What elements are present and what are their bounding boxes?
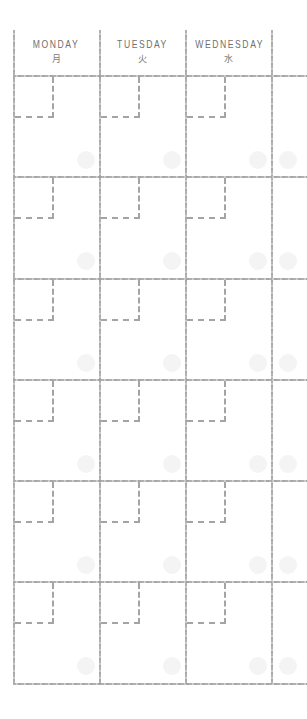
decorative-dot <box>163 657 181 675</box>
date-box <box>101 583 140 624</box>
day-cell[interactable] <box>187 280 271 379</box>
date-box <box>187 381 226 422</box>
day-label-en: WEDNESDAY <box>195 38 261 50</box>
decorative-dot <box>77 151 95 169</box>
date-box <box>101 178 140 219</box>
day-cell[interactable] <box>273 381 307 480</box>
decorative-dot <box>77 252 95 270</box>
day-label-en: TUESDAY <box>109 38 175 50</box>
day-cell[interactable] <box>101 381 185 480</box>
date-box <box>15 178 54 219</box>
decorative-dot <box>249 252 267 270</box>
day-label-jp: 火 <box>100 52 185 65</box>
decorative-dot <box>249 151 267 169</box>
date-box <box>101 381 140 422</box>
decorative-dot <box>249 354 267 372</box>
decorative-dot <box>279 455 297 473</box>
day-cell[interactable] <box>101 583 185 682</box>
date-box <box>187 583 226 624</box>
day-label-en: MONDAY <box>23 38 89 50</box>
day-cell[interactable] <box>187 583 271 682</box>
day-cell[interactable] <box>273 482 307 581</box>
day-cell[interactable] <box>187 178 271 277</box>
day-cell[interactable] <box>273 77 307 176</box>
decorative-dot <box>249 657 267 675</box>
date-box <box>101 482 140 523</box>
decorative-dot <box>77 354 95 372</box>
decorative-dot <box>163 252 181 270</box>
day-cell[interactable] <box>101 482 185 581</box>
date-box <box>15 280 54 321</box>
day-label-jp: 月 <box>14 52 98 65</box>
date-box <box>15 381 54 422</box>
decorative-dot <box>163 151 181 169</box>
decorative-dot <box>163 556 181 574</box>
decorative-dot <box>77 455 95 473</box>
day-header-wednesday: WEDNESDAY 水 <box>186 30 271 74</box>
day-cell[interactable] <box>187 77 271 176</box>
decorative-dot <box>77 556 95 574</box>
decorative-dot <box>163 455 181 473</box>
day-cell[interactable] <box>273 280 307 379</box>
day-cell[interactable] <box>15 77 99 176</box>
day-cell[interactable] <box>15 482 99 581</box>
date-box <box>15 482 54 523</box>
day-cell[interactable] <box>15 381 99 480</box>
day-cell[interactable] <box>187 381 271 480</box>
day-cell[interactable] <box>101 77 185 176</box>
date-box <box>187 77 226 118</box>
day-cell[interactable] <box>187 482 271 581</box>
decorative-dot <box>279 252 297 270</box>
decorative-dot <box>77 657 95 675</box>
date-box <box>187 280 226 321</box>
decorative-dot <box>279 556 297 574</box>
day-cell[interactable] <box>273 178 307 277</box>
row-divider <box>13 683 307 685</box>
decorative-dot <box>249 556 267 574</box>
day-label-jp: 水 <box>186 52 271 65</box>
day-cell[interactable] <box>101 178 185 277</box>
decorative-dot <box>249 455 267 473</box>
date-box <box>101 280 140 321</box>
decorative-dot <box>279 657 297 675</box>
day-cell[interactable] <box>15 178 99 277</box>
decorative-dot <box>279 354 297 372</box>
decorative-dot <box>163 354 181 372</box>
day-cell[interactable] <box>15 280 99 379</box>
day-cell[interactable] <box>273 583 307 682</box>
date-box <box>15 583 54 624</box>
day-cell[interactable] <box>101 280 185 379</box>
day-header-monday: MONDAY 月 <box>14 30 98 74</box>
decorative-dot <box>279 151 297 169</box>
day-cell[interactable] <box>15 583 99 682</box>
date-box <box>187 178 226 219</box>
date-box <box>101 77 140 118</box>
date-box <box>187 482 226 523</box>
date-box <box>15 77 54 118</box>
day-header-tuesday: TUESDAY 火 <box>100 30 185 74</box>
